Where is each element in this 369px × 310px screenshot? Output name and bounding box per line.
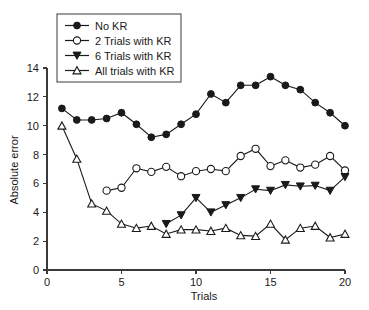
legend-item-label[interactable]: 2 Trials with KR [95,35,171,47]
data-point [222,99,229,106]
series-4 [58,122,349,243]
y-axis-tick-label: 0 [33,264,39,276]
series-2 [103,145,349,194]
data-point [207,209,215,216]
data-point [103,207,111,214]
x-axis-tick-label: 20 [339,276,351,288]
y-axis-tick-label: 14 [27,62,39,74]
legend-swatch-marker [73,37,80,44]
data-point [208,91,215,98]
data-point [163,163,170,170]
y-axis-tick-label: 12 [27,91,39,103]
data-point [326,187,334,194]
data-point [192,168,199,175]
y-axis-tick-label: 2 [33,235,39,247]
data-point [267,73,274,80]
data-point [222,202,230,209]
data-point [237,82,244,89]
data-point [177,212,185,219]
data-point [312,99,319,106]
series-3 [162,174,349,228]
data-point [59,105,66,112]
data-point [327,152,334,159]
data-point [148,168,155,175]
data-point [103,115,110,122]
data-point [118,184,125,191]
x-axis-title: Trials [191,290,218,302]
data-point [252,145,259,152]
legend-swatch-marker [74,22,81,29]
data-point [133,121,140,128]
data-point [341,230,349,237]
data-point [327,109,334,116]
legend-item-label[interactable]: No KR [95,20,127,32]
data-point [267,220,275,227]
data-point [237,194,245,201]
x-axis-tick-label: 15 [264,276,276,288]
x-axis-tick-label: 10 [190,276,202,288]
y-axis-tick-label: 6 [33,177,39,189]
data-point [88,117,95,124]
data-point [222,224,230,231]
data-point [237,152,244,159]
data-point [297,164,304,171]
data-point [341,167,348,174]
data-point [178,121,185,128]
chart-container: 0246810121405101520 No KR2 Trials with K… [0,0,369,310]
data-point [58,122,66,129]
data-point [342,122,349,129]
data-point [162,230,170,237]
chart-series-layer [58,73,349,243]
data-point [162,220,170,227]
data-point [267,163,274,170]
data-point [73,117,80,124]
data-point [163,131,170,138]
data-point [312,161,319,168]
chart-axes: 0246810121405101520 [27,62,351,288]
x-axis-tick-label: 5 [118,276,124,288]
chart-legend: No KR2 Trials with KR6 Trials with KRAll… [57,14,181,82]
legend-item-label[interactable]: All trials with KR [95,65,175,77]
data-point [252,82,259,89]
series-line [62,77,345,138]
data-point [118,109,125,116]
legend-item-label[interactable]: 6 Trials with KR [95,50,171,62]
data-point [282,82,289,89]
y-axis-tick-label: 8 [33,149,39,161]
data-point [297,86,304,93]
data-point [73,155,81,162]
data-point [222,168,229,175]
data-point [88,200,96,207]
data-point [178,173,185,180]
y-axis-tick-label: 10 [27,120,39,132]
data-point [133,165,140,172]
data-point [148,134,155,141]
data-point [103,187,110,194]
data-point [311,222,319,229]
series-1 [59,73,349,140]
y-axis-tick-label: 4 [33,206,39,218]
x-axis-tick-label: 0 [44,276,50,288]
line-chart: 0246810121405101520 No KR2 Trials with K… [0,0,369,310]
data-point [207,165,214,172]
data-point [147,222,155,229]
data-point [282,157,289,164]
data-point [193,111,200,118]
y-axis-title: Absolute error [8,135,20,204]
